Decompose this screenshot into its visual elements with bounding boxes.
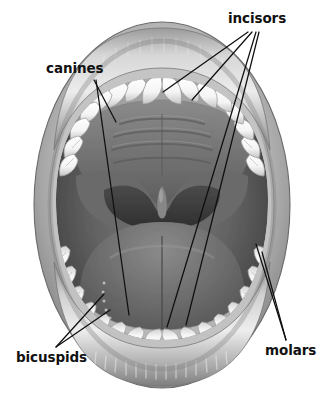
uvula-highlight	[159, 189, 163, 203]
label-incisors: incisors	[228, 12, 286, 26]
diagram-canvas: incisors canines bicuspids molars	[0, 0, 324, 412]
label-canines: canines	[46, 62, 103, 76]
figure-caption	[8, 404, 316, 412]
label-molars: molars	[265, 344, 316, 358]
label-bicuspids: bicuspids	[16, 351, 87, 365]
